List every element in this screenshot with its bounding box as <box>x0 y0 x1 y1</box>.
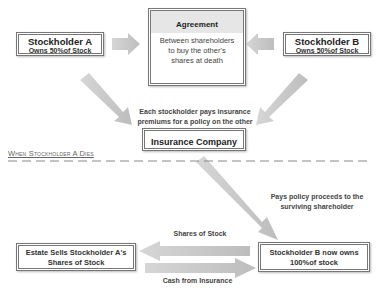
agreement-line-1: Between shareholders <box>151 36 243 46</box>
agreement-box: Agreement Between shareholders to buy th… <box>148 8 246 86</box>
insurance-company-title: Insurance Company <box>151 137 237 147</box>
estate-box: Estate Sells Stockholder A's Shares of S… <box>16 243 136 271</box>
proceeds-line-2: surviving shareholder <box>262 202 372 212</box>
arrow-b-to-insurance <box>256 73 308 125</box>
stockholder-b-after-box: Stockholder B now owns 100%of stock <box>258 242 370 272</box>
stockholder-a-subtitle: Owns 50%of Stock <box>19 47 101 54</box>
cash-from-insurance-label: Cash from Insurance <box>145 276 250 286</box>
proceeds-label: Pays policy proceeds to the surviving sh… <box>262 192 372 212</box>
arrow-b-to-agreement <box>246 33 274 55</box>
insurance-company-box: Insurance Company <box>142 128 246 151</box>
when-a-dies-label: When Stockholder A Dies <box>8 149 94 158</box>
agreement-line-2: to buy the other's <box>151 46 243 56</box>
b-after-line-2: 100%of stock <box>261 258 367 268</box>
shares-of-stock-label: Shares of Stock <box>150 229 250 239</box>
stockholder-a-box: Stockholder A Owns 50%of Stock <box>16 32 104 56</box>
premiums-line-2: premiums for a policy on the other <box>130 117 260 127</box>
arrow-shares-of-stock <box>139 241 250 261</box>
stockholder-b-title: Stockholder B <box>286 36 368 47</box>
arrow-cash <box>145 258 256 278</box>
proceeds-line-1: Pays policy proceeds to the <box>262 192 372 202</box>
arrow-a-to-insurance <box>80 73 132 125</box>
stockholder-b-box: Stockholder B Owns 50%of Stock <box>283 32 371 56</box>
estate-line-2: Shares of Stock <box>19 258 133 268</box>
agreement-header: Agreement <box>151 11 243 33</box>
b-after-line-1: Stockholder B now owns <box>261 248 367 258</box>
agreement-line-3: shares at death <box>151 56 243 66</box>
stockholder-a-title: Stockholder A <box>19 36 101 47</box>
arrow-a-to-agreement <box>112 33 140 55</box>
estate-line-1: Estate Sells Stockholder A's <box>19 248 133 258</box>
agreement-title: Agreement <box>176 20 218 29</box>
stockholder-b-subtitle: Owns 50%of Stock <box>286 47 368 54</box>
premiums-label: Each stockholder pays insurance premiums… <box>130 107 260 127</box>
premiums-line-1: Each stockholder pays insurance <box>130 107 260 117</box>
